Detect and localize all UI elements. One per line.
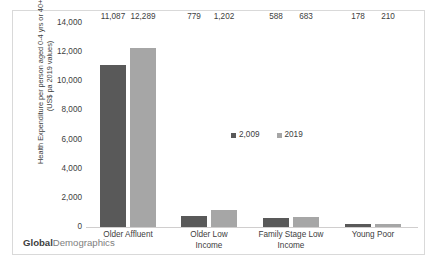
brand-name-bold: Global (23, 237, 53, 248)
bar-slot-2019: 210 (375, 23, 401, 227)
bar-value-label: 178 (351, 13, 365, 21)
y-tick-label: 12,000 (41, 48, 82, 56)
chart-legend: 2,009 2019 (231, 131, 303, 139)
bar-value-label: 210 (381, 13, 395, 21)
bar-value-label: 12,289 (130, 13, 155, 21)
bar-value-label: 588 (269, 13, 283, 21)
bar-value-label: 11,087 (101, 13, 125, 21)
chart-container: Health Expenditure per person aged 0-4 y… (12, 10, 425, 255)
legend-swatch-icon (277, 133, 282, 138)
brand-logo: GlobalDemographics (23, 237, 115, 248)
legend-swatch-icon (231, 133, 236, 138)
legend-label: 2,009 (239, 131, 260, 139)
legend-item-2009[interactable]: 2,009 (231, 131, 260, 139)
bar-value-label: 683 (299, 13, 313, 21)
bar-slot-2009: 178 (345, 23, 371, 227)
bar-slot-2019: 683 (293, 23, 319, 227)
bar-2019[interactable] (130, 48, 156, 227)
x-label-family-stage-low-income: Family Stage Low Income (252, 230, 330, 251)
brand-name-light: Demographics (53, 237, 115, 248)
y-tick-label: 14,000 (41, 19, 82, 27)
x-axis-line (86, 227, 418, 228)
x-axis-category-labels: Older Affluent Older Low Income Family S… (86, 230, 416, 260)
y-tick-label: 4,000 (41, 165, 82, 173)
y-tick-label: 0 (41, 223, 82, 231)
y-tick-label: 8,000 (41, 106, 82, 114)
y-tick-label: 6,000 (41, 135, 82, 143)
bar-slot-2019: 12,289 (130, 23, 156, 227)
y-axis-tick-labels: 14,000 12,000 10,000 8,000 6,000 4,000 2… (41, 23, 82, 227)
bar-group-family-stage-low-income: 588 683 (261, 23, 321, 227)
y-tick-label: 2,000 (41, 194, 82, 202)
bar-slot-2009: 779 (181, 23, 207, 227)
legend-item-2019[interactable]: 2019 (277, 131, 303, 139)
bar-value-label: 1,202 (214, 13, 235, 21)
bar-group-older-affluent: 11,087 12,289 (98, 23, 158, 227)
bar-slot-2009: 588 (263, 23, 289, 227)
bar-2019[interactable] (211, 210, 237, 228)
bar-2019[interactable] (293, 217, 319, 227)
x-label-young-poor: Young Poor (342, 230, 404, 241)
bar-group-older-low-income: 779 1,202 (179, 23, 239, 227)
bar-2009[interactable] (263, 218, 289, 227)
plot-area: 11,087 12,289 779 1,202 588 (86, 23, 416, 227)
bar-2009[interactable] (100, 65, 126, 227)
legend-label: 2019 (285, 131, 303, 139)
bar-slot-2019: 1,202 (211, 23, 237, 227)
y-tick-label: 10,000 (41, 77, 82, 85)
bar-group-young-poor: 178 210 (343, 23, 403, 227)
bar-2009[interactable] (181, 216, 207, 227)
bar-value-label: 779 (187, 13, 201, 21)
bar-slot-2009: 11,087 (100, 23, 126, 227)
x-label-older-low-income: Older Low Income (181, 230, 237, 251)
